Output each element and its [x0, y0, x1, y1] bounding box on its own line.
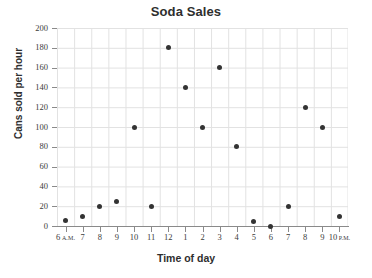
data-point: [114, 199, 119, 204]
data-point: [183, 85, 188, 90]
x-tick-label: 10 P.M.: [317, 233, 361, 242]
y-tick-label: 200: [8, 24, 48, 33]
data-point: [166, 45, 171, 50]
y-tick-label: 20: [8, 202, 48, 211]
data-point: [251, 219, 256, 224]
data-point: [320, 125, 325, 130]
data-point: [303, 105, 308, 110]
y-tick-label: 40: [8, 182, 48, 191]
chart-title: Soda Sales: [0, 4, 372, 19]
data-point: [132, 125, 137, 130]
y-tick-label: 120: [8, 103, 48, 112]
x-tick-meridiem: P.M.: [337, 235, 350, 241]
data-point: [217, 65, 222, 70]
y-tick-label: 180: [8, 43, 48, 52]
x-tick-mark: [66, 227, 67, 232]
data-point: [149, 204, 154, 209]
x-axis-title: Time of day: [0, 252, 372, 264]
data-point: [337, 214, 342, 219]
x-tick-mark: [339, 227, 340, 232]
scatter-chart: Soda Sales Cans sold per hour 2001801601…: [0, 0, 372, 278]
y-tick-label: 0: [8, 222, 48, 231]
data-point: [234, 144, 239, 149]
y-tick-mark: [52, 226, 58, 227]
data-point: [63, 218, 68, 223]
data-point: [286, 204, 291, 209]
data-points-layer: [57, 28, 348, 226]
y-tick-label: 160: [8, 63, 48, 72]
data-point: [200, 125, 205, 130]
y-tick-label: 140: [8, 83, 48, 92]
data-point: [268, 224, 273, 229]
data-point: [97, 204, 102, 209]
y-tick-label: 80: [8, 142, 48, 151]
y-tick-label: 100: [8, 123, 48, 132]
data-point: [80, 214, 85, 219]
x-tick-hour: 10: [329, 232, 338, 242]
y-tick-label: 60: [8, 162, 48, 171]
plot-area: [57, 28, 348, 226]
